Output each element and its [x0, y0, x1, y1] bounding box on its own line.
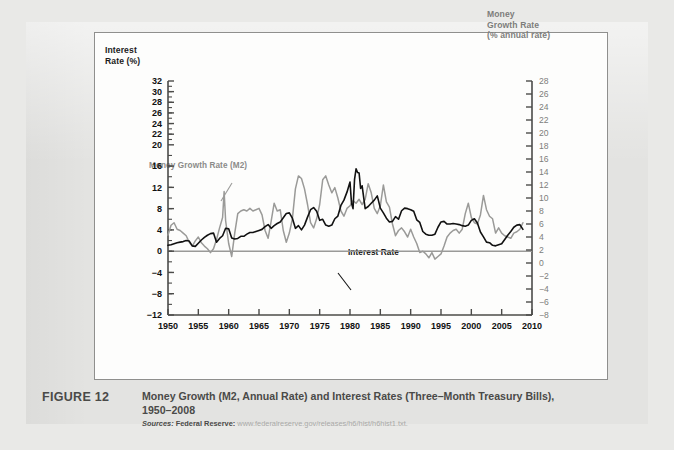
- figure-sources: Sources: Federal Reserve: www.federalres…: [142, 419, 408, 428]
- right-axis-tick-label: 18: [539, 141, 549, 151]
- sources-label: Sources:: [142, 419, 174, 428]
- money-growth-leader-line: [221, 183, 232, 201]
- left-axis-tick-label: 32: [152, 76, 162, 86]
- left-axis-tick-label: 12: [152, 183, 162, 193]
- plot-area: −12−8−4048121620222426283032−8−6−4−20246…: [95, 33, 607, 379]
- right-axis-tick-label: 26: [539, 89, 549, 99]
- right-axis-tick-label: −8: [539, 310, 549, 320]
- left-axis-tick-label: −12: [147, 310, 162, 320]
- right-axis-tick-label: 16: [539, 154, 549, 164]
- figure-title: Money Growth (M2, Annual Rate) and Inter…: [142, 390, 612, 417]
- x-axis-tick-label: 2010: [522, 321, 542, 331]
- right-axis-tick-label: 4: [539, 232, 544, 242]
- right-axis-tick-label: 14: [539, 167, 549, 177]
- x-axis-tick-label: 1970: [279, 321, 299, 331]
- x-axis-tick-label: 1985: [370, 321, 390, 331]
- left-axis-tick-label: 28: [152, 97, 162, 107]
- right-axis-tick-label: 24: [539, 102, 549, 112]
- right-axis-tick-label: 10: [539, 193, 549, 203]
- right-axis-tick-label: 28: [539, 76, 549, 86]
- right-axis-tick-label: 22: [539, 115, 549, 125]
- chart-svg: −12−8−4048121620222426283032−8−6−4−20246…: [95, 33, 607, 379]
- x-axis-tick-label: 1975: [310, 321, 330, 331]
- left-axis-tick-label: 30: [152, 87, 162, 97]
- left-axis-tick-label: 16: [152, 161, 162, 171]
- right-axis-tick-label: 0: [539, 258, 544, 268]
- left-axis-tick-label: 26: [152, 108, 162, 118]
- sources-org: Federal Reserve:: [176, 419, 236, 428]
- chart-panel: Interest Rate (%) Money Growth Rate (% a…: [94, 32, 608, 380]
- left-axis-tick-label: 8: [157, 204, 162, 214]
- right-axis-tick-label: 8: [539, 206, 544, 216]
- sources-url[interactable]: www.federalreserve.gov/releases/h6/hist/…: [237, 419, 407, 428]
- left-axis-tick-label: 22: [152, 129, 162, 139]
- left-axis-tick-label: 0: [157, 246, 162, 256]
- left-axis-tick-label: 4: [157, 225, 162, 235]
- left-axis-tick-label: 20: [152, 140, 162, 150]
- page-sheet: Interest Rate (%) Money Growth Rate (% a…: [26, 22, 648, 424]
- x-axis-tick-label: 1965: [249, 321, 269, 331]
- right-axis-tick-label: −2: [539, 271, 549, 281]
- x-axis-tick-label: 1980: [340, 321, 360, 331]
- figure-number: FIGURE 12: [42, 390, 109, 404]
- right-axis-tick-label: 20: [539, 128, 549, 138]
- x-axis-tick-label: 1995: [431, 321, 451, 331]
- figure-title-line2: 1950–2008: [142, 404, 612, 418]
- figure-title-line1: Money Growth (M2, Annual Rate) and Inter…: [142, 390, 554, 402]
- x-axis-tick-label: 1955: [188, 321, 208, 331]
- right-axis-tick-label: −4: [539, 284, 549, 294]
- interest-rate-leader-line: [338, 273, 351, 290]
- x-axis-tick-label: 1960: [219, 321, 239, 331]
- right-axis-tick-label: 2: [539, 245, 544, 255]
- x-axis-tick-label: 2005: [492, 321, 512, 331]
- left-axis-tick-label: −8: [152, 289, 162, 299]
- right-axis-tick-label: −6: [539, 297, 549, 307]
- left-axis-tick-label: −4: [152, 268, 162, 278]
- right-axis-tick-label: 6: [539, 219, 544, 229]
- x-axis-tick-label: 1990: [401, 321, 421, 331]
- money-growth-line: [168, 176, 523, 259]
- x-axis-tick-label: 1950: [158, 321, 178, 331]
- right-axis-tick-label: 12: [539, 180, 549, 190]
- x-axis-tick-label: 2000: [461, 321, 481, 331]
- left-axis-tick-label: 24: [152, 119, 162, 129]
